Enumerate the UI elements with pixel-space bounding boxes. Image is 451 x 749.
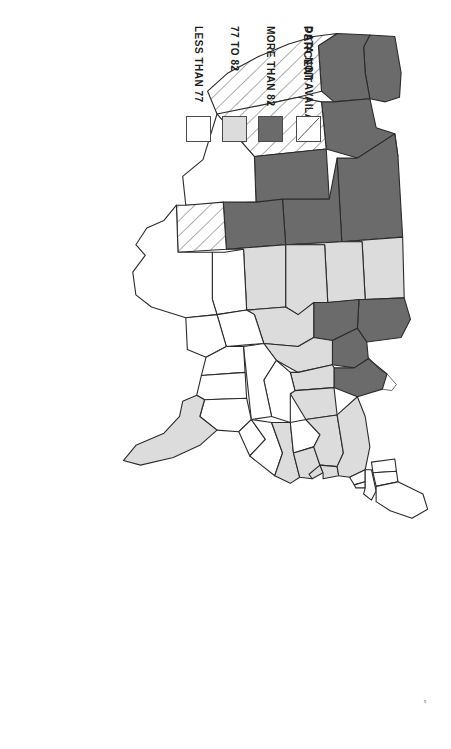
diagonal-hatch-icon	[297, 117, 320, 141]
legend: PERCENT LESS THAN 77 77 TO 82 MORE THAN …	[150, 8, 350, 158]
legend-swatch-light-gray	[222, 116, 247, 142]
region-WA[interactable]	[364, 35, 401, 102]
legend-swatch-white	[186, 116, 211, 142]
region-AL[interactable]	[197, 372, 247, 399]
region-OK[interactable]	[212, 249, 246, 314]
region-OH[interactable]	[290, 388, 337, 420]
map-page: m PERCENT LESS THAN 77 77 TO 82 MORE THA…	[0, 0, 451, 749]
region-NY[interactable]	[337, 397, 370, 478]
region-ME[interactable]	[376, 482, 427, 518]
legend-entry-data-not-available[interactable]: DATA NOT AVAILABLE	[296, 8, 321, 34]
region-CO[interactable]	[223, 199, 285, 249]
region-NJ[interactable]	[320, 465, 339, 479]
legend-swatch-hatched	[296, 116, 321, 142]
region-MN[interactable]	[357, 298, 410, 342]
region-NM[interactable]	[176, 202, 226, 252]
corner-pencil-mark: m	[423, 700, 428, 704]
legend-swatch-dark-gray	[258, 116, 283, 142]
region-VT[interactable]	[371, 459, 396, 473]
region-FL[interactable]	[123, 395, 217, 465]
